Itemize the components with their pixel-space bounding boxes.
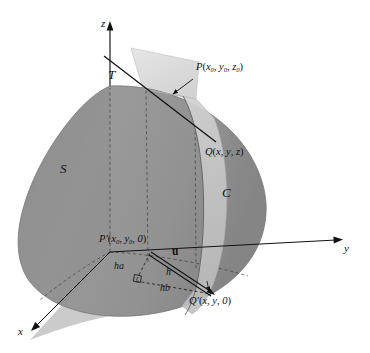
- x-axis-label: x: [18, 326, 23, 337]
- y-axis-label: y: [344, 243, 349, 254]
- point-Pprime-label: P′(x0, y0, 0): [99, 234, 146, 245]
- directional-derivative-figure: [0, 0, 370, 353]
- z-axis-arrowhead: [107, 21, 114, 31]
- point-Qprime-label: Q′(x, y, 0): [189, 296, 231, 307]
- surface-label: S: [60, 162, 67, 175]
- vector-u-label: u: [172, 246, 178, 258]
- point-Q-label: Q(x, y, z): [205, 147, 244, 158]
- measure-h-label: h: [166, 267, 171, 277]
- curve-label: C: [222, 186, 231, 199]
- y-axis-arrowhead: [333, 236, 343, 243]
- measure-hb-label: hb: [160, 283, 170, 293]
- z-axis-label: z: [101, 18, 105, 29]
- tangent-line-label: T: [108, 68, 115, 81]
- point-P-label: P(x0, y0, z0): [196, 62, 243, 73]
- measure-ha-label: ha: [114, 261, 124, 271]
